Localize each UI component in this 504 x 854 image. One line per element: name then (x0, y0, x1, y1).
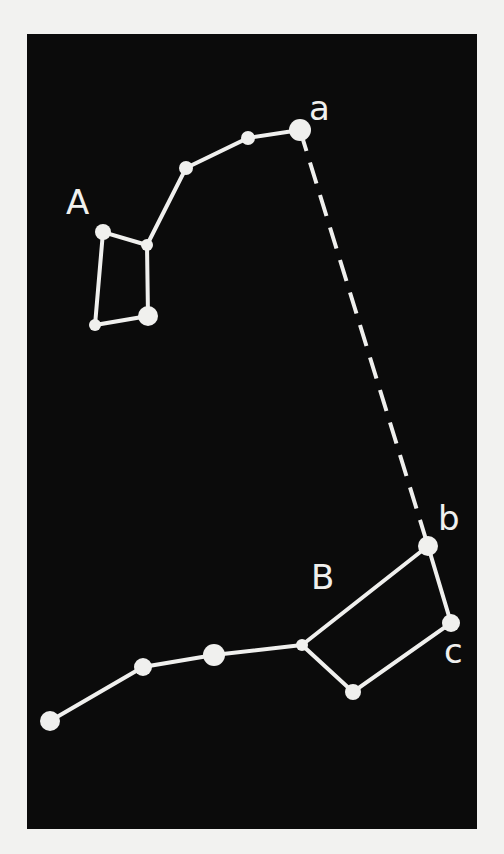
night-sky-panel (27, 34, 477, 829)
star-c (442, 614, 460, 632)
star-b (418, 536, 438, 556)
star (296, 639, 308, 651)
star (241, 131, 255, 145)
star (40, 711, 60, 731)
label-star-b: b (438, 498, 460, 538)
star (134, 658, 152, 676)
label-constellation-a: A (66, 182, 89, 222)
star (95, 224, 111, 240)
label-constellation-b: B (311, 557, 334, 597)
star (345, 684, 361, 700)
star (138, 306, 158, 326)
star-a (289, 119, 311, 141)
star (89, 319, 101, 331)
label-star-a: a (309, 88, 330, 128)
star (179, 161, 193, 175)
star (141, 239, 153, 251)
star (203, 644, 225, 666)
constellation-diagram: A a b B c (0, 0, 504, 854)
label-star-c: c (444, 631, 463, 671)
